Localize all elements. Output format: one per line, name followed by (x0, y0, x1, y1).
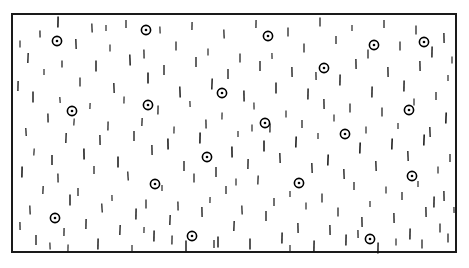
ring-marker (187, 231, 196, 240)
ring-marker (260, 118, 269, 127)
marker-center-dot (411, 175, 414, 178)
marker-center-dot (408, 109, 411, 112)
marker-center-dot (369, 238, 372, 241)
ring-marker (202, 152, 211, 161)
marker-center-dot (145, 29, 148, 32)
marker-center-dot (147, 104, 150, 107)
marker-center-dot (267, 35, 270, 38)
marker-center-dot (56, 40, 59, 43)
marker-center-dot (221, 92, 224, 95)
ring-marker (404, 105, 413, 114)
ring-marker (340, 129, 349, 138)
ring-marker (217, 88, 226, 97)
marker-center-dot (323, 67, 326, 70)
ring-marker (369, 40, 378, 49)
ring-marker (50, 213, 59, 222)
marker-center-dot (206, 156, 209, 159)
ring-marker (143, 100, 152, 109)
figure-root (0, 0, 469, 268)
marker-center-dot (373, 44, 376, 47)
ring-marker (319, 63, 328, 72)
plot-border (12, 14, 456, 252)
ring-marker (52, 36, 61, 45)
ring-marker (263, 31, 272, 40)
ring-marker (407, 171, 416, 180)
marker-center-dot (191, 235, 194, 238)
marker-center-dot (264, 122, 267, 125)
marker-center-dot (54, 217, 57, 220)
marker-center-dot (71, 110, 74, 113)
ring-marker (141, 25, 150, 34)
marker-center-dot (423, 41, 426, 44)
ring-marker (365, 234, 374, 243)
ring-marker (150, 179, 159, 188)
ring-marker (67, 106, 76, 115)
ring-marker (294, 178, 303, 187)
marker-center-dot (154, 183, 157, 186)
figure-canvas (0, 0, 469, 268)
marker-center-dot (298, 182, 301, 185)
marker-center-dot (344, 133, 347, 136)
ring-marker (419, 37, 428, 46)
